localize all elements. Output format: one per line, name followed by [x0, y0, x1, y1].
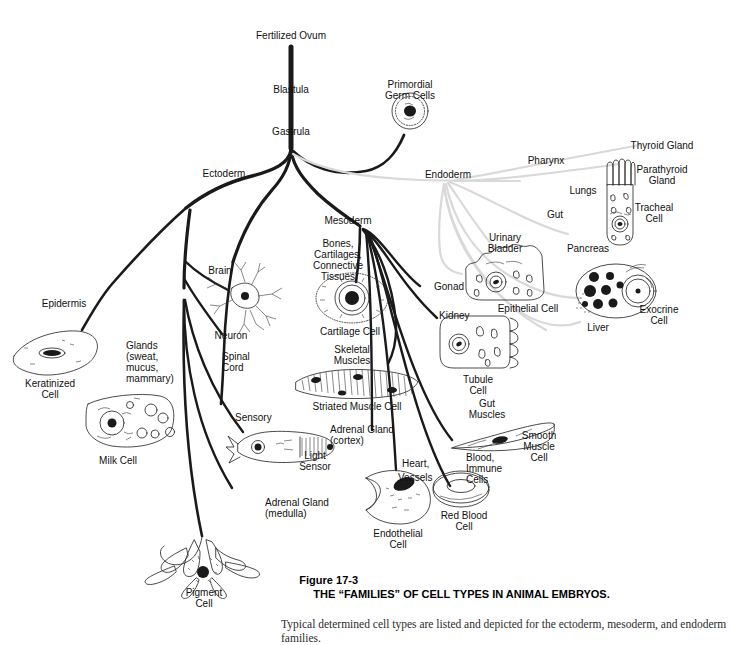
label-pigment-cell-line1: Pigment — [186, 587, 223, 599]
label-adrenal-medulla-line1: Adrenal Gland — [265, 497, 329, 509]
mesoderm-branches — [356, 228, 452, 486]
label-mesoderm: Mesoderm — [324, 215, 371, 227]
label-endothelial-cell-line2: Cell — [389, 539, 406, 551]
label-exocrine-cell-line2: Cell — [650, 315, 667, 327]
label-parathyroid-line1: Parathyroid — [636, 164, 687, 176]
label-endothelial-cell-line1: Endothelial — [373, 528, 422, 540]
label-skeletal-muscles-line2: Muscles — [334, 355, 371, 367]
label-heart-vessels-line1: Heart, — [402, 458, 429, 470]
label-milk-cell: Milk Cell — [99, 455, 137, 467]
label-smooth-muscle-line3: Cell — [530, 452, 547, 464]
keratinized-cell-art — [13, 331, 97, 375]
label-brain: Brain — [208, 265, 231, 277]
label-ectoderm: Ectoderm — [203, 168, 246, 180]
label-lungs: Lungs — [569, 185, 596, 197]
label-light-sensor-line2: Sensor — [299, 461, 331, 473]
label-bones-line2: Cartilages, — [314, 249, 362, 261]
label-kidney: Kidney — [439, 310, 470, 322]
label-smooth-muscle-line2: Muscle — [523, 441, 555, 453]
label-glands-line2: (sweat, — [126, 351, 158, 363]
label-red-blood-cell-line2: Cell — [455, 521, 472, 533]
label-blood-immune-line3: Cells — [466, 474, 488, 486]
label-pigment-cell-line2: Cell — [195, 598, 212, 610]
tracheal-cell-art — [607, 159, 635, 245]
label-urinary-bladder-line1: Urinary — [489, 232, 521, 244]
caption-title: THE “FAMILIES” OF CELL TYPES IN ANIMAL E… — [313, 588, 609, 600]
label-liver: Liver — [587, 322, 609, 334]
label-thyroid-gland: Thyroid Gland — [631, 140, 694, 152]
label-pharynx: Pharynx — [528, 155, 565, 167]
label-bones-line3: Connective — [313, 260, 363, 272]
label-spinal-cord-line1: Spinal — [222, 351, 250, 363]
label-sensory: Sensory — [235, 412, 272, 424]
label-light-sensor-line1: Light — [304, 450, 326, 462]
label-striated-muscle-cell: Striated Muscle Cell — [313, 401, 402, 413]
label-smooth-muscle-line1: Smooth — [522, 430, 556, 442]
striated-muscle-cell-art — [296, 370, 418, 399]
label-adrenal-cortex-line1: Adrenal Gland — [330, 424, 394, 436]
figure-caption: Figure 17-3 THE “FAMILIES” OF CELL TYPES… — [281, 559, 731, 645]
label-epidermis: Epidermis — [42, 298, 86, 310]
label-gut-muscles-line1: Gut — [479, 398, 495, 410]
label-parathyroid-line2: Gland — [649, 175, 676, 187]
label-bones-line1: Bones, — [322, 238, 353, 250]
label-pancreas: Pancreas — [567, 243, 609, 255]
ectoderm-branches — [82, 208, 243, 536]
label-keratinized-cell-line1: Keratinized — [25, 378, 75, 390]
label-primordial-germ-cells-line2: Germ Cells — [385, 90, 435, 102]
label-primordial-germ-cells-line1: Primordial — [387, 79, 432, 91]
label-gastrula: Gastrula — [272, 126, 310, 138]
milk-cell-art — [86, 394, 175, 447]
label-endoderm: Endoderm — [425, 169, 471, 181]
label-gut: Gut — [547, 209, 563, 221]
label-spinal-cord-line2: Cord — [222, 362, 244, 374]
label-gonad: Gonad — [434, 281, 464, 293]
label-glands-line3: mucus, — [126, 362, 158, 374]
label-adrenal-cortex-line2: (cortex) — [330, 435, 364, 447]
label-skeletal-muscles-line1: Skeletal — [334, 344, 370, 356]
label-epithelial-cell: Epithelial Cell — [498, 303, 559, 315]
label-cartilage-cell: Cartilage Cell — [320, 326, 380, 338]
label-tubule-cell-line1: Tubule — [463, 374, 493, 386]
label-adrenal-medulla-line2: (medulla) — [265, 508, 307, 520]
label-heart-vessels-line2: Vessels — [398, 472, 432, 484]
label-urinary-bladder-line2: Bladder — [488, 243, 522, 255]
caption-body: Typical determined cell types are listed… — [281, 617, 731, 645]
label-neuron: Neuron — [215, 330, 248, 342]
label-tubule-cell-line2: Cell — [469, 385, 486, 397]
label-gut-muscles-line2: Muscles — [469, 409, 506, 421]
tubule-cell-art — [440, 316, 518, 368]
label-glands-line1: Glands — [126, 340, 158, 352]
label-blastula: Blastula — [273, 84, 309, 96]
label-fertilized-ovum: Fertilized Ovum — [256, 30, 326, 42]
label-bones-line4: Tissues — [321, 271, 355, 283]
label-exocrine-cell-line1: Exocrine — [640, 304, 679, 316]
label-keratinized-cell-line2: Cell — [41, 389, 58, 401]
label-tracheal-cell-line1: Tracheal — [635, 202, 674, 214]
label-red-blood-cell-line1: Red Blood — [441, 510, 488, 522]
label-tracheal-cell-line2: Cell — [645, 213, 662, 225]
label-blood-immune-line1: Blood, — [466, 452, 494, 464]
label-glands-line4: mammary) — [126, 373, 174, 385]
caption-figure-number: Figure 17-3 — [299, 574, 358, 586]
label-blood-immune-line2: Immune — [466, 463, 502, 475]
